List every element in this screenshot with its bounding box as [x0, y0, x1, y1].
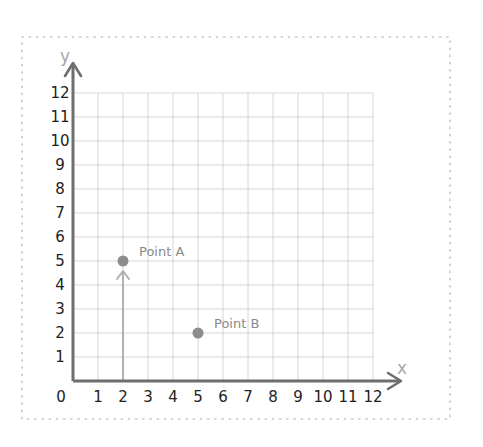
point-marker-icon	[118, 256, 129, 267]
data-points: Point APoint B	[118, 244, 260, 339]
x-tick-label: 2	[118, 388, 128, 406]
grid	[73, 93, 373, 381]
y-tick-label: 2	[55, 324, 65, 342]
point-b: Point B	[193, 316, 260, 339]
y-tick-label: 8	[55, 180, 65, 198]
x-tick-label: 9	[293, 388, 303, 406]
x-tick-label: 1	[93, 388, 103, 406]
axes	[65, 63, 401, 389]
x-tick-label: 7	[243, 388, 253, 406]
x-tick-label: 11	[338, 388, 357, 406]
y-tick-label: 3	[55, 300, 65, 318]
x-tick-label: 12	[363, 388, 382, 406]
y-tick-label: 5	[55, 252, 65, 270]
x-tick-labels: 0123456789101112	[56, 388, 382, 406]
y-tick-label: 10	[50, 132, 69, 150]
y-tick-label: 11	[50, 108, 69, 126]
y-tick-label: 6	[55, 228, 65, 246]
origin-label: 0	[56, 388, 66, 406]
point-label: Point B	[214, 316, 259, 331]
x-tick-label: 10	[313, 388, 332, 406]
y-tick-label: 7	[55, 204, 65, 222]
dotted-frame	[22, 37, 450, 419]
y-tick-label: 12	[50, 84, 69, 102]
x-tick-label: 5	[193, 388, 203, 406]
point-a: Point A	[118, 244, 185, 267]
arrow-to-point-a	[117, 271, 129, 381]
y-tick-label: 1	[55, 348, 65, 366]
coordinate-plane: 0123456789101112 123456789101112 x y Poi…	[0, 0, 483, 447]
x-tick-label: 4	[168, 388, 178, 406]
x-tick-label: 6	[218, 388, 228, 406]
point-label: Point A	[139, 244, 184, 259]
x-axis-label: x	[397, 358, 407, 378]
y-axis-label: y	[60, 46, 70, 66]
y-tick-label: 4	[55, 276, 65, 294]
x-tick-label: 8	[268, 388, 278, 406]
y-tick-label: 9	[55, 156, 65, 174]
point-marker-icon	[193, 328, 204, 339]
x-tick-label: 3	[143, 388, 153, 406]
y-tick-labels: 123456789101112	[50, 84, 69, 366]
